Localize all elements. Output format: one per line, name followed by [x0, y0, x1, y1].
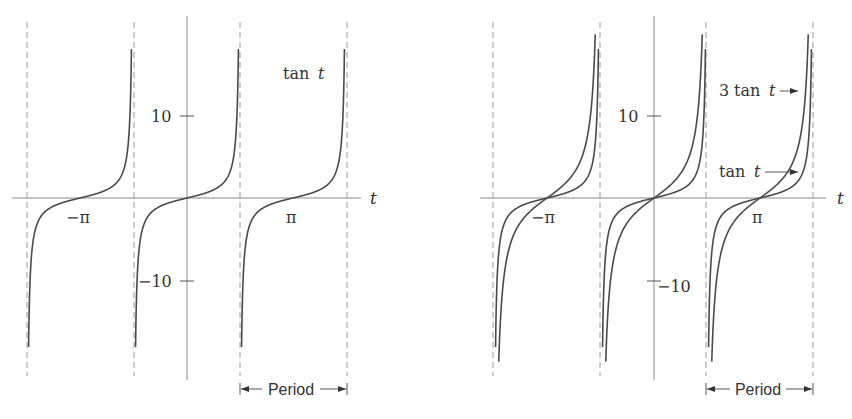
- left-t-axis-label: t: [370, 188, 377, 208]
- left-ytick-label-neg10: −10: [138, 272, 172, 291]
- right-period-bracket: Period: [706, 381, 813, 398]
- label-3tan-fn: tan: [734, 81, 760, 100]
- left-period-bracket: Period: [240, 381, 347, 398]
- label-3tan-var: t: [769, 81, 776, 100]
- right-label-3tan: 3 tan t: [719, 81, 798, 100]
- label-3tan-coef: 3: [719, 81, 729, 100]
- left-ytick-label-10: 10: [151, 107, 171, 126]
- left-curve-label-var: t: [318, 64, 325, 83]
- left-chart: t 10 −10 −π π tan t Period: [12, 16, 377, 398]
- right-xtick-label-neg-pi: −π: [531, 208, 555, 227]
- left-curve-label-fn: tan: [283, 64, 309, 83]
- label-tan-var: t: [754, 162, 761, 181]
- right-period-label: Period: [735, 381, 781, 398]
- right-ytick-label-neg10: −10: [657, 277, 691, 296]
- left-curve-label: tan t: [283, 64, 325, 83]
- right-chart: t 10 −10 −π π 3 tan t tan t Period: [480, 16, 844, 398]
- label-tan-fn: tan: [719, 162, 745, 181]
- right-xtick-label-pi: π: [752, 208, 763, 227]
- left-xtick-label-pi: π: [286, 208, 297, 227]
- right-t-axis-label: t: [837, 188, 844, 208]
- left-xtick-label-neg-pi: −π: [66, 208, 90, 227]
- figure: t 10 −10 −π π tan t Period t 10: [0, 0, 852, 419]
- left-period-label: Period: [268, 381, 314, 398]
- right-label-tan: tan t: [719, 162, 798, 181]
- right-ytick-label-10: 10: [618, 107, 638, 126]
